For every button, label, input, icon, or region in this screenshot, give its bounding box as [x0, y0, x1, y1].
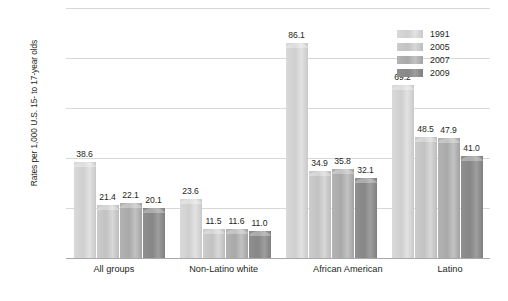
bar-slot: 11.5	[203, 8, 225, 258]
legend-swatch	[397, 69, 423, 77]
legend-swatch	[397, 43, 423, 51]
legend-swatch	[397, 30, 423, 38]
bar-highlight	[355, 178, 377, 183]
bar-group: 23.611.511.611.0	[179, 8, 271, 258]
x-axis-category-label: Non-Latino white	[189, 264, 258, 274]
bar-highlight	[286, 43, 308, 48]
bar-slot: 32.1	[355, 8, 377, 258]
bar-highlight	[226, 229, 248, 234]
bar-group: 38.621.422.120.1	[73, 8, 165, 258]
bar[interactable]: 20.1	[143, 208, 165, 258]
bar-slot: 23.6	[180, 8, 202, 258]
bar-value-label: 21.4	[99, 192, 116, 202]
bar-highlight	[392, 85, 414, 90]
bar-value-label: 35.8	[334, 156, 351, 166]
bar[interactable]: 48.5	[415, 137, 437, 258]
bar-value-label: 48.5	[417, 124, 434, 134]
bar[interactable]: 38.6	[74, 162, 96, 259]
bar-value-label: 23.6	[182, 186, 199, 196]
bar-highlight	[120, 203, 142, 208]
y-axis-title: Rates per 1,000 U.S. 15- to 17-year olds	[29, 13, 39, 213]
bar-value-label: 41.0	[463, 143, 480, 153]
bar-slot: 34.9	[309, 8, 331, 258]
bar-highlight	[438, 138, 460, 143]
bar-value-label: 11.6	[228, 216, 244, 226]
bar-value-label: 34.9	[311, 158, 328, 168]
bar-highlight	[180, 199, 202, 204]
x-axis-line	[66, 258, 490, 259]
bar-slot: 38.6	[74, 8, 96, 258]
bar-slot: 11.0	[249, 8, 271, 258]
chart-legend: 1991200520072009	[397, 27, 450, 79]
legend-item[interactable]: 1991	[397, 27, 450, 40]
bar-slot: 22.1	[120, 8, 142, 258]
legend-label: 1991	[430, 29, 450, 39]
bar[interactable]: 11.5	[203, 229, 225, 258]
bar-value-label: 32.1	[357, 165, 374, 175]
bar[interactable]: 23.6	[180, 199, 202, 258]
legend-item[interactable]: 2009	[397, 66, 450, 79]
bar-value-label: 22.1	[122, 190, 139, 200]
bar[interactable]: 34.9	[309, 171, 331, 258]
bar-highlight	[203, 229, 225, 234]
x-axis-category-label: African American	[313, 264, 382, 274]
bar-highlight	[97, 205, 119, 210]
bar-slot: 20.1	[143, 8, 165, 258]
legend-label: 2007	[430, 55, 450, 65]
bar-highlight	[332, 169, 354, 174]
bar-highlight	[415, 137, 437, 142]
bar[interactable]: 22.1	[120, 203, 142, 258]
bar-slot: 86.1	[286, 8, 308, 258]
bar-slot: 21.4	[97, 8, 119, 258]
bar-value-label: 11.0	[251, 218, 267, 228]
x-axis-category-label: All groups	[93, 264, 134, 274]
legend-label: 2009	[430, 68, 450, 78]
bar-slot: 41.0	[461, 8, 483, 258]
bar[interactable]: 11.0	[249, 231, 271, 259]
bar[interactable]: 86.1	[286, 43, 308, 258]
bar-value-label: 47.9	[440, 125, 457, 135]
x-axis-category-label: Latino	[437, 264, 462, 274]
bar-highlight	[249, 231, 271, 236]
bar-value-label: 11.5	[205, 216, 221, 226]
bar[interactable]: 47.9	[438, 138, 460, 258]
legend-item[interactable]: 2007	[397, 53, 450, 66]
legend-label: 2005	[430, 42, 450, 52]
bar-value-label: 20.1	[145, 195, 162, 205]
bar[interactable]: 41.0	[461, 156, 483, 259]
bar-value-label: 38.6	[76, 149, 93, 159]
bar-slot: 35.8	[332, 8, 354, 258]
bar-highlight	[461, 156, 483, 161]
bar[interactable]: 11.6	[226, 229, 248, 258]
bar[interactable]: 69.2	[392, 85, 414, 258]
bar[interactable]: 21.4	[97, 205, 119, 259]
bar-slot: 11.6	[226, 8, 248, 258]
bar[interactable]: 32.1	[355, 178, 377, 258]
bar[interactable]: 35.8	[332, 169, 354, 259]
bar-highlight	[74, 162, 96, 167]
bar-highlight	[143, 208, 165, 213]
legend-item[interactable]: 2005	[397, 40, 450, 53]
legend-swatch	[397, 56, 423, 64]
bar-highlight	[309, 171, 331, 176]
bar-group: 86.134.935.832.1	[285, 8, 377, 258]
bar-value-label: 86.1	[288, 30, 305, 40]
x-axis-category-labels: All groupsNon-Latino whiteAfrican Americ…	[66, 264, 490, 274]
bar-chart: Rates per 1,000 U.S. 15- to 17-year olds…	[0, 0, 508, 301]
